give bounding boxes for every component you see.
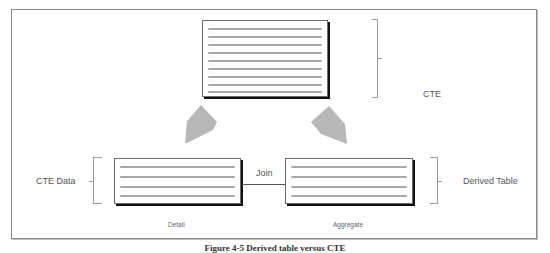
aggregate-table-box [285,158,413,204]
detail-table-box [114,158,241,204]
cte-data-bracket [93,157,102,204]
cte-data-bracket-tick [89,181,93,182]
cte-bracket-tick [378,58,382,59]
figure-caption: Figure 4-5 Derived table versus CTE [0,243,550,253]
join-connector [242,184,285,185]
derived-table-bracket [430,157,438,204]
derived-table-label: Derived Table [463,176,518,186]
arrow-to-detail-icon [183,103,223,143]
cte-table-box [202,20,328,97]
join-label: Join [256,168,273,178]
derived-table-bracket-tick [438,181,442,182]
detail-label: Detail [168,221,185,228]
cte-label: CTE [423,89,441,99]
aggregate-label: Aggregate [333,221,363,228]
arrow-to-aggregate-icon [309,104,349,144]
cte-data-label: CTE Data [36,176,76,186]
